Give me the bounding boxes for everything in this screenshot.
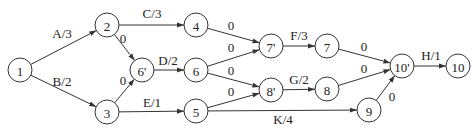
edge-label: A/3 bbox=[52, 26, 72, 41]
node-label: 1 bbox=[17, 64, 24, 79]
node-label: 6 bbox=[193, 64, 200, 79]
edge-8p-8 bbox=[283, 89, 315, 90]
node-label: 9 bbox=[366, 104, 373, 119]
node-10p: 10' bbox=[390, 54, 414, 78]
edge-label: 0 bbox=[120, 73, 127, 88]
edge-label: D/2 bbox=[158, 53, 178, 68]
node-label: 4 bbox=[193, 19, 200, 34]
node-3: 3 bbox=[95, 100, 119, 124]
edge-label: 0 bbox=[228, 84, 235, 99]
edge-label: G/2 bbox=[289, 72, 309, 87]
network-diagram: A/3B/2C/300D/2E/10000F/3G/2K/4000H/1 123… bbox=[0, 0, 475, 133]
arrow-icon bbox=[208, 110, 357, 111]
edge-label: H/1 bbox=[421, 48, 441, 63]
edge-label: 0 bbox=[120, 31, 127, 46]
edge-label: 0 bbox=[228, 18, 235, 33]
edge-label: K/4 bbox=[273, 112, 293, 127]
node-label: 10 bbox=[452, 60, 465, 75]
node-7: 7 bbox=[315, 34, 339, 58]
node-9: 9 bbox=[357, 98, 381, 122]
node-6p: 6' bbox=[130, 58, 154, 82]
edge-3-5 bbox=[119, 111, 184, 112]
edge-label: 0 bbox=[228, 40, 235, 55]
node-10: 10 bbox=[446, 54, 470, 78]
node-label: 2 bbox=[104, 19, 111, 34]
arrow-icon bbox=[283, 89, 315, 90]
nodes-layer: 1236'4657'8'78910'10 bbox=[8, 13, 470, 124]
edge-label: 0 bbox=[361, 61, 368, 76]
node-label: 10' bbox=[394, 60, 409, 75]
node-label: 8 bbox=[324, 83, 331, 98]
edges-layer bbox=[31, 25, 446, 112]
edge-label: 0 bbox=[228, 63, 235, 78]
node-8p: 8' bbox=[259, 78, 283, 102]
node-7p: 7' bbox=[259, 34, 283, 58]
node-label: 3 bbox=[104, 106, 111, 121]
node-label: 7' bbox=[267, 40, 276, 55]
node-8: 8 bbox=[315, 77, 339, 101]
node-2: 2 bbox=[95, 13, 119, 37]
edge-5-9 bbox=[208, 110, 357, 111]
node-1: 1 bbox=[8, 58, 32, 82]
edge-label: F/3 bbox=[290, 28, 307, 43]
edge-label: 0 bbox=[389, 89, 396, 104]
node-label: 8' bbox=[267, 84, 276, 99]
edge-label: B/2 bbox=[53, 74, 72, 89]
edge-label: 0 bbox=[361, 39, 368, 54]
edge-label: E/1 bbox=[143, 95, 161, 110]
node-6: 6 bbox=[184, 58, 208, 82]
arrow-icon bbox=[119, 111, 184, 112]
node-label: 5 bbox=[193, 105, 200, 120]
edge-label: C/3 bbox=[143, 6, 162, 21]
node-label: 7 bbox=[324, 40, 331, 55]
node-label: 6' bbox=[138, 64, 147, 79]
node-4: 4 bbox=[184, 13, 208, 37]
node-5: 5 bbox=[184, 99, 208, 123]
